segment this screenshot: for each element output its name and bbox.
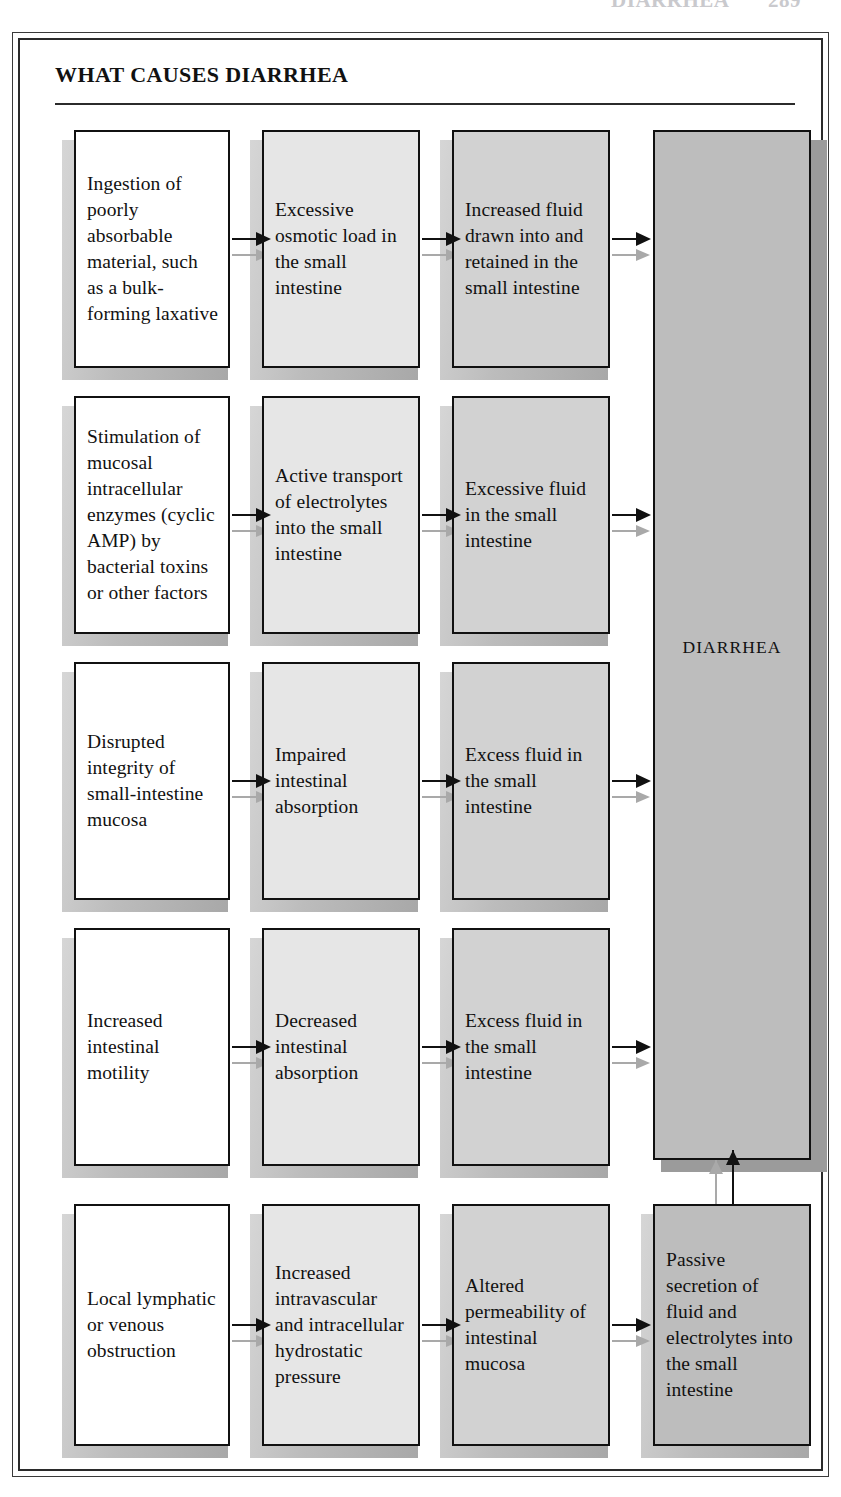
row-5-cause-box: Local lymphatic or venous obstruction bbox=[74, 1204, 230, 1446]
row-4-step2-box: Decreased intestinal absorption bbox=[262, 928, 420, 1166]
running-head-title: DIARRHEA bbox=[611, 0, 728, 12]
row-3-step2-box: Impaired intestinal absorption bbox=[262, 662, 420, 900]
row-3-cause-text: Disrupted integrity of small-intestine m… bbox=[76, 729, 228, 833]
row-3-step3-box: Excess fluid in the small intestine bbox=[452, 662, 610, 900]
row-3-step2-text: Impaired intestinal absorption bbox=[264, 742, 418, 820]
row-2-step2-box: Active transport of electrolytes into th… bbox=[262, 396, 420, 634]
row-2-step3-text: Excessive fluid in the small intestine bbox=[454, 476, 608, 554]
row-5-step2-text: Increased intravascular and intracellula… bbox=[264, 1260, 418, 1390]
row-1-step3-box: Increased fluid drawn into and retained … bbox=[452, 130, 610, 368]
row-5-cause-text: Local lymphatic or venous obstruction bbox=[76, 1286, 228, 1364]
row-5-step3-box: Altered permeability of intestinal mucos… bbox=[452, 1204, 610, 1446]
row-2-cause-box: Stimulation of mucosal intracellular enz… bbox=[74, 396, 230, 634]
running-head-page: 289 bbox=[768, 0, 801, 12]
row-2-step2-text: Active transport of electrolytes into th… bbox=[264, 463, 418, 567]
row-5-step3-text: Altered permeability of intestinal mucos… bbox=[454, 1273, 608, 1377]
row-4-step3-text: Excess fluid in the small intestine bbox=[454, 1008, 608, 1086]
row-2-step3-box: Excessive fluid in the small intestine bbox=[452, 396, 610, 634]
row-3-step3-text: Excess fluid in the small intestine bbox=[454, 742, 608, 820]
row-4-cause-box: Increased intestinal motility bbox=[74, 928, 230, 1166]
row-1-step3-text: Increased fluid drawn into and retained … bbox=[454, 197, 608, 301]
row-5-step4-text: Passive secretion of fluid and electroly… bbox=[655, 1247, 809, 1403]
row-5-step4-box: Passive secretion of fluid and electroly… bbox=[653, 1204, 811, 1446]
figure-frame-outer: WHAT CAUSES DIARRHEA DIARRHEA Ingestion … bbox=[12, 32, 829, 1477]
row-1-cause-box: Ingestion of poorly absorbable material,… bbox=[74, 130, 230, 368]
flowchart-canvas: DIARRHEA Ingestion of poorly absorbable … bbox=[20, 40, 825, 1473]
row-5-step2-box: Increased intravascular and intracellula… bbox=[262, 1204, 420, 1446]
row-1-cause-text: Ingestion of poorly absorbable material,… bbox=[76, 171, 228, 327]
diarrhea-terminal-label: DIARRHEA bbox=[653, 637, 811, 658]
row-3-cause-box: Disrupted integrity of small-intestine m… bbox=[74, 662, 230, 900]
row-2-cause-text: Stimulation of mucosal intracellular enz… bbox=[76, 424, 228, 605]
row-1-step2-box: Excessive osmotic load in the small inte… bbox=[262, 130, 420, 368]
row-4-cause-text: Increased intestinal motility bbox=[76, 1008, 228, 1086]
row-1-step2-text: Excessive osmotic load in the small inte… bbox=[264, 197, 418, 301]
row-4-step3-box: Excess fluid in the small intestine bbox=[452, 928, 610, 1166]
running-head: DIARRHEA 289 bbox=[0, 0, 841, 18]
row-4-step2-text: Decreased intestinal absorption bbox=[264, 1008, 418, 1086]
figure-frame-inner: WHAT CAUSES DIARRHEA DIARRHEA Ingestion … bbox=[18, 38, 823, 1471]
